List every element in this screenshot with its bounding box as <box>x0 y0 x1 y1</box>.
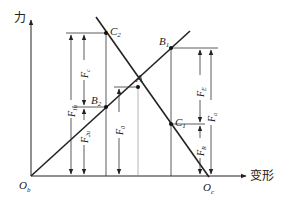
point-a <box>136 85 140 89</box>
label-fe: FE <box>195 87 207 98</box>
label-c1: C1 <box>175 116 186 130</box>
origin-c-label: Oc <box>203 181 215 196</box>
label-b1: B1 <box>159 35 169 49</box>
label-fr: FR <box>195 146 207 157</box>
force-deformation-diagram: 力 变形 Ob Oc A B1 B2 C1 C2 F1u Fc F2u F0 F… <box>0 0 289 201</box>
bolt-line <box>31 31 190 176</box>
label-f0: F0 <box>114 126 126 136</box>
label-fa: Fa <box>206 113 218 123</box>
label-fc: Fc <box>79 69 91 79</box>
label-f2u: F2u <box>79 131 91 144</box>
origin-b-label: Ob <box>19 179 31 194</box>
diagram-svg: 力 变形 Ob Oc A B1 B2 C1 C2 F1u Fc F2u F0 F… <box>0 0 289 201</box>
label-b2: B2 <box>91 94 102 108</box>
point-b1 <box>169 46 173 50</box>
point-b2 <box>104 105 108 109</box>
point-c2 <box>104 31 108 35</box>
label-f1u: F1u <box>66 105 78 118</box>
label-a: A <box>135 72 143 84</box>
label-c2: C2 <box>110 25 121 39</box>
member-line <box>96 17 209 177</box>
deformation-axis-label: 变形 <box>250 168 274 183</box>
point-c1 <box>169 122 173 126</box>
force-axis-label: 力 <box>14 11 26 25</box>
